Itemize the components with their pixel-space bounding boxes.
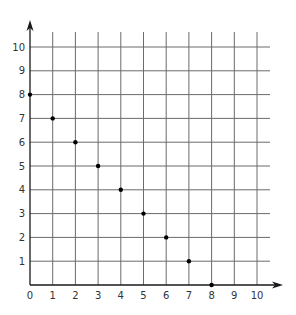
data-point [187, 259, 191, 263]
grid-lines [30, 32, 270, 285]
x-tick-label: 3 [95, 290, 101, 301]
y-tick-label: 6 [19, 137, 25, 148]
y-tick-label: 1 [19, 256, 25, 267]
x-tick-label: 9 [231, 290, 237, 301]
data-point [96, 164, 100, 168]
y-tick-label: 2 [19, 232, 25, 243]
y-tick-label: 5 [19, 161, 25, 172]
data-point [51, 116, 55, 120]
data-point [28, 92, 32, 96]
x-tick-label: 10 [251, 290, 264, 301]
data-point [73, 140, 77, 144]
x-tick-label: 5 [140, 290, 146, 301]
y-tick-label: 8 [19, 89, 25, 100]
x-tick-label: 1 [50, 290, 56, 301]
x-tick-labels: 012345678910 [27, 290, 264, 301]
x-tick-label: 4 [118, 290, 124, 301]
x-tick-label: 7 [186, 290, 192, 301]
y-tick-label: 10 [12, 42, 25, 53]
y-tick-label: 9 [19, 65, 25, 76]
x-tick-label: 2 [72, 290, 78, 301]
y-tick-label: 3 [19, 208, 25, 219]
data-point [164, 235, 168, 239]
x-tick-label: 8 [208, 290, 214, 301]
data-point [209, 283, 213, 287]
scatter-chart: 012345678910 12345678910 [0, 0, 296, 315]
x-tick-label: 6 [163, 290, 169, 301]
y-tick-label: 4 [19, 184, 25, 195]
x-tick-label: 0 [27, 290, 33, 301]
data-point [141, 211, 145, 215]
y-tick-labels: 12345678910 [12, 42, 25, 267]
y-tick-label: 7 [19, 113, 25, 124]
axes [27, 20, 284, 289]
data-point [119, 188, 123, 192]
